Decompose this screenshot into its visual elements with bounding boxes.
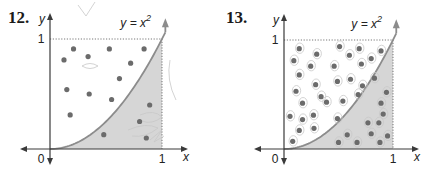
data-point [287,114,292,119]
data-point [85,54,90,59]
data-point [297,72,302,77]
data-point [68,112,73,117]
data-point [101,132,106,137]
y-axis-up-arrow-icon [281,14,287,21]
data-point [347,53,352,58]
data-point [372,76,377,81]
pencil-scribble [82,64,98,69]
x-tick-0: 0 [272,152,279,166]
data-point [360,83,365,88]
x-axis-left-arrow-icon [20,146,27,152]
chart-13-plot: y101xy = x2 [213,0,427,175]
data-point [128,61,133,66]
data-point [381,112,386,117]
pencil-scribble [169,60,176,100]
data-point [365,120,370,125]
data-point [337,44,342,49]
curve-label-exponent: 2 [145,13,151,23]
data-point [290,139,295,144]
data-point [378,48,383,53]
data-point [308,64,313,69]
x-tick-1: 1 [159,152,166,166]
y-tick-1: 1 [38,32,45,46]
y-axis-down-arrow-icon [47,158,53,165]
shaded-area-under-curve [50,39,162,149]
data-point [313,82,318,87]
data-point [318,94,323,99]
pencil-scribble [78,2,95,16]
data-point [332,64,337,69]
data-point [64,87,69,92]
data-point [335,79,340,84]
data-point [369,131,374,136]
data-point [314,52,319,57]
x-tick-0: 0 [38,152,45,166]
data-point [297,128,302,133]
curve-label: y = x2 [119,13,151,30]
data-point [354,140,359,145]
x-axis-left-arrow-icon [254,146,261,152]
data-point [61,57,66,62]
data-point [345,132,350,137]
curve-label-exponent: 2 [376,14,382,24]
data-point [311,126,316,131]
data-point [384,90,389,95]
data-point [300,101,305,106]
y-axis-label: y [272,13,280,27]
data-point [109,97,114,102]
x-tick-1: 1 [390,152,397,166]
data-point [340,98,345,103]
data-point [141,46,146,51]
y-tick-1: 1 [272,33,279,47]
y-axis-down-arrow-icon [281,158,287,165]
curve-arrow-icon [393,19,400,28]
data-point [293,89,298,94]
data-point [311,113,316,118]
problem-13-panel: 13. y101xy = x2 [213,0,427,175]
data-point [376,120,381,125]
data-point [356,92,361,97]
x-axis-label: x [182,150,190,164]
data-point [369,56,374,61]
data-point [324,100,329,105]
data-point [144,135,149,140]
data-point [107,46,112,51]
data-point [359,61,364,66]
data-point [385,133,390,138]
data-point [147,102,152,107]
data-point [297,46,302,51]
data-point [335,116,340,121]
x-axis-label: x [413,150,421,164]
y-axis-label: y [38,12,46,26]
data-point [87,91,92,96]
data-point [377,140,382,145]
curve-label: y = x2 [350,14,382,31]
data-point [291,58,296,63]
data-point [357,46,362,51]
data-point [137,119,142,124]
data-point [336,140,341,145]
y-axis-up-arrow-icon [47,13,53,20]
problem-12-panel: 12. y101xy = x2 [0,0,213,175]
data-point [117,76,122,81]
data-point [300,117,305,122]
curve-arrow-icon [162,18,169,27]
data-point [378,101,383,106]
data-point [348,77,353,82]
data-point [71,46,76,51]
chart-12-plot: y101xy = x2 [0,0,213,175]
